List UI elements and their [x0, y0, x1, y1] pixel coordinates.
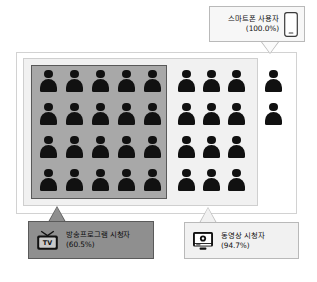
person-body [178, 79, 195, 92]
person-body [118, 112, 135, 125]
person-icon-tv [66, 103, 83, 125]
person-head [70, 103, 78, 111]
person-head [70, 70, 78, 78]
person-icon-video [178, 136, 195, 158]
person-head [70, 136, 78, 144]
person-icon-tv [118, 169, 135, 191]
video-label-percent: (94.7%) [221, 241, 265, 251]
svg-text:TV: TV [43, 239, 52, 247]
person-head [232, 136, 240, 144]
person-head [232, 169, 240, 177]
person-body [228, 178, 245, 191]
person-body [92, 145, 109, 158]
tv-label-title: 방송프로그램 시청자 [66, 230, 130, 239]
person-icon-tv [40, 169, 57, 191]
person-body [178, 145, 195, 158]
person-body [144, 178, 161, 191]
video-callout: 동영상 시청자 (94.7%) [184, 222, 299, 259]
person-icon-video [228, 103, 245, 125]
person-body [118, 79, 135, 92]
person-head [182, 70, 190, 78]
person-icon-video [178, 70, 195, 92]
video-monitor-icon [192, 231, 214, 251]
person-head [182, 169, 190, 177]
person-icon-tv [66, 169, 83, 191]
smartphone-callout-label: 스마트폰 사용자 (100.0%) [228, 14, 279, 34]
person-icon-video [228, 136, 245, 158]
person-icon-tv [92, 136, 109, 158]
person-body [144, 145, 161, 158]
person-body [228, 145, 245, 158]
tv-callout-pointer [49, 207, 65, 222]
person-icon-tv [66, 136, 83, 158]
person-head [96, 103, 104, 111]
person-body [144, 112, 161, 125]
person-icon-video [203, 103, 220, 125]
person-icon-tv [118, 103, 135, 125]
person-body [40, 79, 57, 92]
person-icon-tv [144, 136, 161, 158]
infographic-canvas: 스마트폰 사용자 (100.0%) TV 방송프로그램 시청자 (60.5%) [0, 0, 317, 282]
person-head [96, 169, 104, 177]
person-body [265, 79, 282, 92]
person-head [207, 169, 215, 177]
person-body [66, 178, 83, 191]
person-body [228, 112, 245, 125]
person-icon-tv [92, 169, 109, 191]
smartphone-callout: 스마트폰 사용자 (100.0%) [209, 6, 305, 42]
tv-callout-label: 방송프로그램 시청자 (60.5%) [66, 230, 130, 250]
person-icon-video [228, 169, 245, 191]
person-icon-tv [144, 103, 161, 125]
smartphone-callout-pointer [262, 42, 278, 53]
person-head [207, 136, 215, 144]
person-icon-tv [118, 136, 135, 158]
person-head [96, 70, 104, 78]
video-callout-pointer [200, 208, 216, 223]
person-body [228, 79, 245, 92]
person-body [40, 112, 57, 125]
person-icon-video [203, 169, 220, 191]
person-icon-tv [92, 70, 109, 92]
person-icon-tv [40, 103, 57, 125]
person-head [148, 136, 156, 144]
smartphone-label-title: 스마트폰 사용자 [228, 14, 279, 23]
person-head [182, 136, 190, 144]
person-head [44, 136, 52, 144]
person-body [203, 79, 220, 92]
person-icon-tv [40, 70, 57, 92]
person-icon-tv [118, 70, 135, 92]
smartphone-label-percent: (100.0%) [228, 24, 279, 34]
person-body [203, 145, 220, 158]
person-head [70, 169, 78, 177]
person-body [40, 178, 57, 191]
person-icon-tv [40, 136, 57, 158]
smartphone-icon [284, 12, 298, 37]
person-head [44, 70, 52, 78]
person-body [66, 112, 83, 125]
person-body [265, 112, 282, 125]
person-icon-video [178, 103, 195, 125]
person-body [178, 112, 195, 125]
person-icon-video [228, 70, 245, 92]
person-head [44, 103, 52, 111]
person-head [148, 70, 156, 78]
person-head [148, 103, 156, 111]
person-head [122, 103, 130, 111]
person-icon-video [203, 70, 220, 92]
person-head [182, 103, 190, 111]
tv-callout: TV 방송프로그램 시청자 (60.5%) [28, 221, 154, 259]
person-head [269, 103, 277, 111]
video-label-title: 동영상 시청자 [221, 231, 265, 240]
person-icon-video [178, 169, 195, 191]
person-icon-tv [66, 70, 83, 92]
person-body [66, 79, 83, 92]
person-icon-tv [92, 103, 109, 125]
person-head [122, 169, 130, 177]
person-body [92, 112, 109, 125]
person-body [203, 178, 220, 191]
person-body [66, 145, 83, 158]
person-head [232, 70, 240, 78]
person-icon-tv [144, 70, 161, 92]
person-body [40, 145, 57, 158]
person-icon-video [203, 136, 220, 158]
